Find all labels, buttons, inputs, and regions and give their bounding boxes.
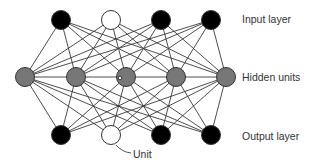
edge-input-hidden	[25, 20, 111, 77]
edge-input-hidden	[25, 20, 161, 77]
edge-hidden-output	[61, 77, 126, 135]
edge-input-hidden	[76, 20, 211, 77]
input-unit-2	[102, 11, 121, 30]
output-unit-4	[202, 126, 221, 145]
input-unit-1	[52, 11, 71, 30]
output-unit-2	[102, 126, 121, 145]
edge-hidden-output	[61, 77, 226, 135]
edge-input-hidden	[126, 20, 211, 77]
output-unit-3	[152, 126, 171, 145]
edge-input-hidden	[176, 20, 211, 77]
unit-label: Unit	[133, 148, 152, 160]
edge-hidden-output	[25, 77, 61, 135]
units	[16, 11, 236, 145]
hidden-units-label: Hidden units	[242, 71, 300, 83]
edge-input-hidden	[25, 20, 61, 77]
hidden-unit-marker	[118, 76, 122, 80]
edge-hidden-output	[161, 77, 226, 135]
hidden-unit-4	[167, 68, 186, 87]
input-unit-4	[202, 11, 221, 30]
hidden-unit-5	[217, 68, 236, 87]
neural-network-diagram: Input layer Hidden units Output layer Un…	[0, 0, 313, 168]
output-unit-1	[52, 126, 71, 145]
edge-hidden-output	[25, 77, 111, 135]
input-layer-label: Input layer	[242, 13, 292, 25]
hidden-unit-1	[16, 68, 35, 87]
hidden-unit-2	[67, 68, 86, 87]
edge-input-hidden	[25, 20, 211, 77]
unit-leader-line	[116, 145, 131, 153]
input-unit-3	[152, 11, 171, 30]
output-layer-label: Output layer	[242, 130, 300, 142]
